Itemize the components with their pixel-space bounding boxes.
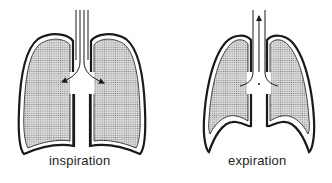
expiration-panel bbox=[204, 10, 314, 152]
inspiration-label: inspiration bbox=[49, 153, 110, 168]
trachea bbox=[76, 10, 88, 62]
expiration-label: expiration bbox=[228, 153, 286, 168]
inspiration-panel bbox=[19, 10, 146, 154]
